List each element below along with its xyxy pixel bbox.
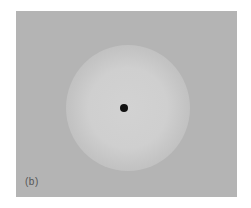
panel-label: (b) <box>25 176 39 187</box>
center-dot <box>120 104 128 112</box>
figure-panel: (b) <box>16 11 237 197</box>
bright-halo <box>66 45 190 171</box>
